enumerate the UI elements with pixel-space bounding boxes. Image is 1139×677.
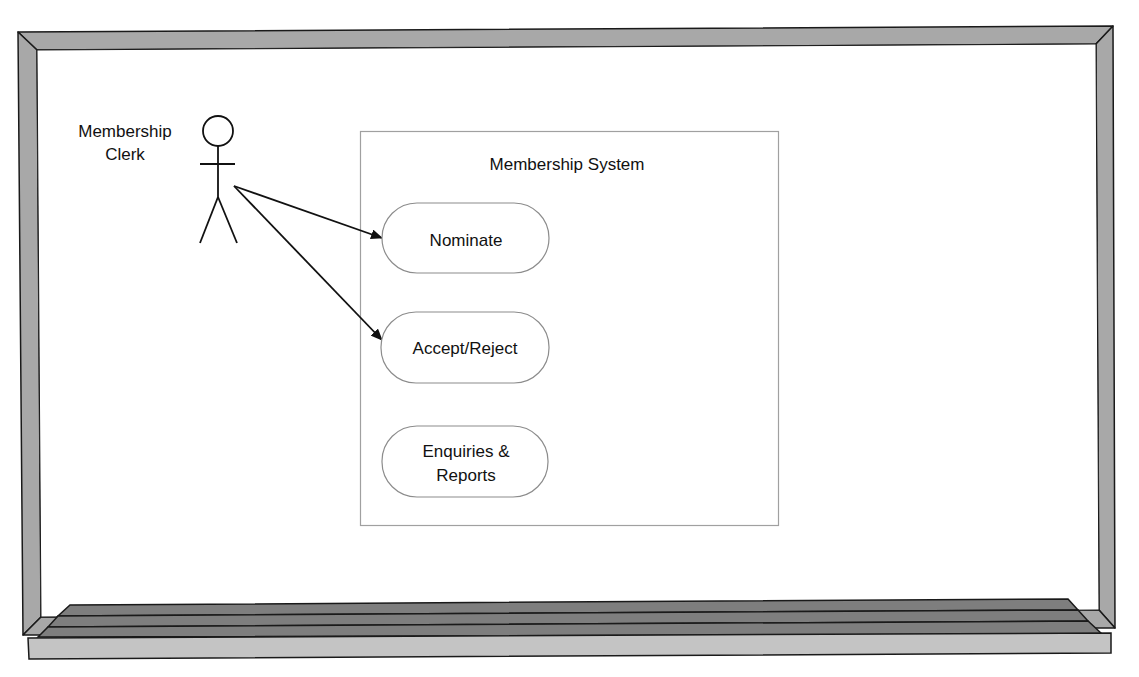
actor-name-line-1: Membership xyxy=(78,122,172,141)
use-case-shape xyxy=(382,426,548,497)
use-case-label: Nominate xyxy=(430,231,503,250)
use-case-label-line-1: Enquiries & xyxy=(423,442,511,461)
whiteboard-diagram: Membership System Membership Clerk Nomin… xyxy=(0,0,1139,677)
marker-ledge xyxy=(28,599,1111,659)
whiteboard-frame xyxy=(18,26,1115,635)
use-case-nominate[interactable]: Nominate xyxy=(382,203,549,273)
use-case-accept-reject[interactable]: Accept/Reject xyxy=(381,312,549,383)
use-case-enquiries-reports[interactable]: Enquiries & Reports xyxy=(382,426,548,497)
board-surface xyxy=(37,44,1099,617)
system-title: Membership System xyxy=(490,155,645,174)
actor-name-line-2: Clerk xyxy=(105,145,145,164)
use-case-label: Accept/Reject xyxy=(413,339,518,358)
ledge-front-bar xyxy=(28,633,1111,659)
use-case-label-line-2: Reports xyxy=(436,466,496,485)
